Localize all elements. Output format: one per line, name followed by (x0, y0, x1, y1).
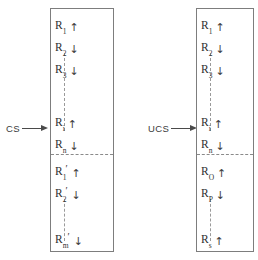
arrow-up-icon-ucs-i: ↑ (214, 119, 223, 130)
right-arrow-icon-cs (22, 125, 48, 133)
response-item-cs-n: Rn ↓ (55, 139, 79, 154)
response-item-ucs-s: Rs ↑ (201, 234, 224, 249)
arrow-down-icon-cs-prime-2: ↓ (72, 190, 81, 201)
response-label-ucs-3: R3 (201, 64, 212, 79)
response-label-cs-2: R2 (55, 42, 66, 57)
arrow-up-icon-cs-prime-1: ↑ (72, 168, 81, 179)
response-label-ucs-2: R2 (201, 42, 212, 57)
response-label-cs-i: Ri (55, 117, 65, 132)
arrow-down-icon-cs-3: ↓ (69, 66, 78, 77)
response-label-ucs-o: RO (201, 166, 214, 181)
response-item-cs-3: R3 ↓ (55, 64, 79, 79)
response-section-ucs-upper: R1 ↑ R2 ↓ R3 ↓ Ri ↑ Rn ↓ (197, 9, 253, 154)
response-item-ucs-2: R2 ↓ (201, 42, 225, 57)
response-label-ucs-n: Rn (201, 139, 212, 154)
response-label-ucs-i: Ri (201, 117, 211, 132)
response-label-cs-prime-2: R2′ (55, 188, 69, 203)
stimulus-text-ucs: UCS (148, 123, 169, 134)
arrow-up-icon-cs-i: ↑ (68, 119, 77, 130)
response-section-cs-upper: R1 ↑ R2 ↓ R3 ↓ Ri ↑ Rn ↓ (51, 9, 113, 154)
response-item-ucs-i: Ri ↑ (201, 117, 223, 132)
arrow-down-icon-cs-n: ↓ (69, 141, 78, 152)
response-column-cs: R1 ↑ R2 ↓ R3 ↓ Ri ↑ Rn ↓ (50, 8, 114, 252)
stimulus-label-ucs: UCS (148, 123, 197, 134)
arrow-down-icon-ucs-n: ↓ (215, 141, 224, 152)
response-label-cs-3: R3 (55, 64, 66, 79)
response-section-cs-lower: R1′ ↑ R2′ ↓ Rm′ ↓ (51, 154, 113, 251)
response-item-cs-prime-2: R2′ ↓ (55, 188, 81, 203)
arrow-up-icon-ucs-s: ↑ (215, 236, 224, 247)
response-item-cs-prime-1: R1′ ↑ (55, 166, 81, 181)
response-label-cs-n: Rn (55, 139, 66, 154)
stimulus-label-cs: CS (6, 123, 48, 134)
response-section-ucs-lower: RO ↑ RP ↓ Rs ↑ (197, 154, 253, 251)
response-item-ucs-p: RP ↓ (201, 188, 225, 203)
arrow-up-icon-ucs-o: ↑ (217, 168, 226, 179)
response-label-cs-prime-m: Rm′ (55, 234, 71, 249)
response-label-ucs-1: R1 (201, 20, 212, 35)
response-item-ucs-3: R3 ↓ (201, 64, 225, 79)
response-item-cs-prime-m: Rm′ ↓ (55, 234, 83, 249)
response-label-ucs-p: RP (201, 188, 213, 203)
arrow-down-icon-ucs-p: ↓ (216, 190, 225, 201)
arrow-up-icon-ucs-1: ↑ (215, 22, 224, 33)
response-item-ucs-o: RO ↑ (201, 166, 226, 181)
arrow-down-icon-ucs-3: ↓ (215, 66, 224, 77)
right-arrow-icon-ucs (171, 125, 197, 133)
diagram-canvas: CS UCS R1 ↑ R2 ↓ R3 ↓ Ri ↑ (0, 0, 258, 260)
response-item-cs-1: R1 ↑ (55, 20, 79, 35)
arrow-down-icon-ucs-2: ↓ (215, 44, 224, 55)
response-item-ucs-1: R1 ↑ (201, 20, 225, 35)
arrow-down-icon-cs-2: ↓ (69, 44, 78, 55)
response-label-cs-1: R1 (55, 20, 66, 35)
arrow-down-icon-cs-prime-m: ↓ (74, 236, 83, 247)
response-item-cs-i: Ri ↑ (55, 117, 77, 132)
response-item-cs-2: R2 ↓ (55, 42, 79, 57)
stimulus-text-cs: CS (6, 123, 20, 134)
response-label-ucs-s: Rs (201, 234, 212, 249)
response-column-ucs: R1 ↑ R2 ↓ R3 ↓ Ri ↑ Rn ↓ (196, 8, 254, 252)
response-item-ucs-n: Rn ↓ (201, 139, 225, 154)
arrow-up-icon-cs-1: ↑ (69, 22, 78, 33)
response-label-cs-prime-1: R1′ (55, 166, 69, 181)
